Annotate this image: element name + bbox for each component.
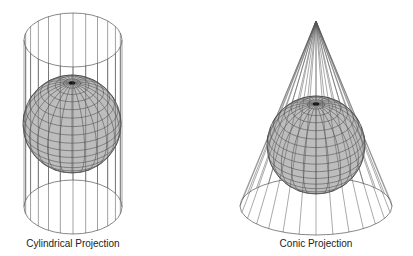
cone-front-lines [240, 21, 392, 235]
conic-projection-label: Conic Projection [280, 238, 353, 249]
projection-diagram [0, 0, 413, 256]
cylindrical-projection-label: Cylindrical Projection [26, 238, 119, 249]
cylindrical-globe [23, 75, 121, 173]
